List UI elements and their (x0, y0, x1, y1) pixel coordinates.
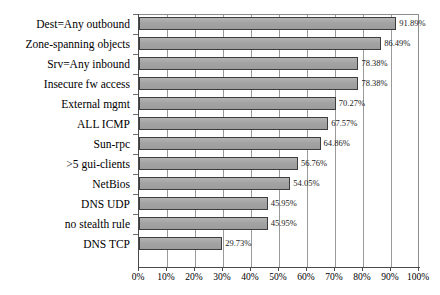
y-tick-mark (133, 154, 138, 155)
bar-value-label: 64.86% (321, 135, 350, 152)
bar (139, 97, 336, 110)
bar-value-label: 70.27% (336, 95, 365, 112)
bar (139, 17, 396, 30)
category-label: Srv=Any inbound (47, 54, 130, 74)
bar-value-label: 29.73% (222, 235, 251, 252)
bar-row: 67.57% (139, 114, 419, 134)
x-tick-mark (250, 268, 251, 271)
bar-row: 29.73% (139, 234, 419, 254)
bar (139, 57, 358, 70)
bar (139, 137, 321, 150)
bar (139, 237, 222, 250)
bar-value-label: 54.05% (290, 175, 319, 192)
bars-layer: 91.89%86.49%78.38%78.38%70.27%67.57%64.8… (139, 14, 419, 268)
bar-chart: Dest=Any outboundZone-spanning objectsSr… (0, 0, 440, 295)
category-label: >5 gui-clients (66, 154, 130, 174)
bar-row: 78.38% (139, 54, 419, 74)
x-axis-tick-labels: 0%10%20%30%40%50%60%70%80%90%100% (138, 270, 419, 286)
bar-value-label: 78.38% (358, 75, 387, 92)
x-tick-label: 20% (185, 270, 202, 284)
y-tick-mark (133, 74, 138, 75)
bar-value-label: 78.38% (358, 55, 387, 72)
bar-value-label: 56.76% (298, 155, 327, 172)
bar-value-label: 86.49% (381, 35, 410, 52)
category-label: Dest=Any outbound (36, 14, 130, 34)
category-label: Insecure fw access (44, 74, 130, 94)
bar (139, 177, 290, 190)
category-label: no stealth rule (65, 214, 130, 234)
y-tick-mark (133, 34, 138, 35)
bar-row: 45.95% (139, 214, 419, 234)
y-tick-mark (133, 54, 138, 55)
category-label: DNS UDP (81, 194, 130, 214)
bar-row: 56.76% (139, 154, 419, 174)
bar (139, 217, 268, 230)
y-tick-mark (133, 134, 138, 135)
bar-value-label: 67.57% (328, 115, 357, 132)
bar (139, 37, 381, 50)
x-tick-label: 80% (353, 270, 370, 284)
bar (139, 117, 328, 130)
x-tick-label: 60% (297, 270, 314, 284)
category-label: Zone-spanning objects (26, 34, 130, 54)
y-tick-mark (133, 194, 138, 195)
category-label: External mgmt (61, 94, 130, 114)
y-tick-mark (133, 94, 138, 95)
x-tick-mark (334, 268, 335, 271)
bar (139, 157, 298, 170)
bar-value-label: 45.95% (268, 215, 297, 232)
x-tick-label: 10% (157, 270, 174, 284)
bar (139, 77, 358, 90)
y-tick-mark (133, 114, 138, 115)
x-tick-mark (166, 268, 167, 271)
x-tick-mark (138, 268, 139, 271)
x-tick-label: 100% (407, 270, 429, 284)
x-tick-mark (390, 268, 391, 271)
category-label: ALL ICMP (77, 114, 130, 134)
x-tick-label: 70% (325, 270, 342, 284)
category-label: NetBios (92, 174, 130, 194)
bar-row: 91.89% (139, 14, 419, 34)
category-axis-labels: Dest=Any outboundZone-spanning objectsSr… (0, 14, 134, 268)
x-tick-mark (418, 268, 419, 271)
bar-row: 86.49% (139, 34, 419, 54)
bar (139, 197, 268, 210)
x-tick-label: 90% (381, 270, 398, 284)
bar-value-label: 45.95% (268, 195, 297, 212)
x-tick-mark (278, 268, 279, 271)
bar-row: 45.95% (139, 194, 419, 214)
bar-row: 78.38% (139, 74, 419, 94)
bar-value-label: 91.89% (396, 15, 425, 32)
y-tick-mark (133, 214, 138, 215)
y-tick-mark (133, 174, 138, 175)
bar-row: 54.05% (139, 174, 419, 194)
y-tick-mark (133, 14, 138, 15)
x-tick-label: 40% (241, 270, 258, 284)
x-tick-mark (362, 268, 363, 271)
x-tick-mark (306, 268, 307, 271)
category-label: Sun-rpc (94, 134, 130, 154)
x-tick-label: 50% (269, 270, 286, 284)
category-label: DNS TCP (83, 234, 130, 254)
x-tick-mark (194, 268, 195, 271)
bar-row: 70.27% (139, 94, 419, 114)
bar-row: 64.86% (139, 134, 419, 154)
x-tick-mark (222, 268, 223, 271)
x-tick-label: 0% (132, 270, 145, 284)
y-tick-mark (133, 234, 138, 235)
x-tick-label: 30% (213, 270, 230, 284)
